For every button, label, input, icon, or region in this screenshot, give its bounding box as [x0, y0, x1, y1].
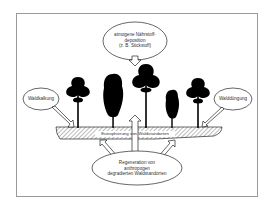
- ground-label: Eutrophierung von Waldstandorten: [94, 131, 176, 137]
- left-ellipse-label: Waldkalkung: [24, 96, 58, 102]
- right-ellipse-label: Walddüngung: [215, 96, 251, 102]
- diagram: atmogene Nährstoff- deposition (z. B. St…: [0, 0, 269, 205]
- bottom-ellipse-text: Regeneration von anthropogen degradierte…: [97, 160, 177, 177]
- top-ellipse-text: atmogene Nährstoff- deposition (z. B. St…: [105, 32, 165, 49]
